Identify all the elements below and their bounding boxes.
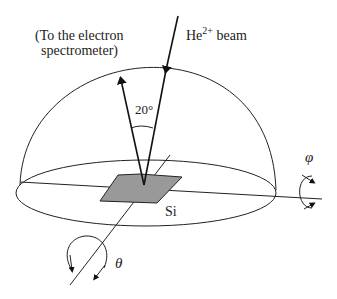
angle-label: 20° bbox=[135, 102, 153, 117]
theta-label: θ bbox=[115, 255, 123, 271]
phi-label: φ bbox=[305, 149, 313, 165]
theta-rotation-icon bbox=[67, 236, 107, 270]
phi-rotation-icon bbox=[300, 176, 312, 208]
spectrometer-label-line1: (To the electron bbox=[35, 28, 123, 44]
he-beam-arrow bbox=[166, 16, 178, 70]
angle-arc bbox=[131, 126, 153, 128]
beam-label: He2+ beam bbox=[186, 25, 247, 43]
sample-label: Si bbox=[165, 204, 177, 219]
spectrometer-label-line2: spectrometer) bbox=[41, 43, 118, 59]
he-beam-line bbox=[144, 70, 166, 185]
hemisphere-dome bbox=[20, 67, 276, 190]
spectrometer-line bbox=[121, 80, 144, 185]
si-sample bbox=[100, 174, 182, 203]
geometry-diagram: (To the electron spectrometer) He2+ beam… bbox=[0, 0, 337, 299]
